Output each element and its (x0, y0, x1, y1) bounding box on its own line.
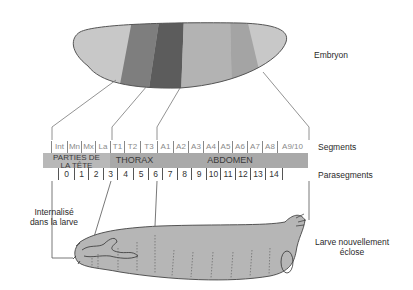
parasegment-cell: 8 (177, 168, 191, 180)
segment-cell: A8 (262, 141, 277, 153)
abdomen-label: ABDOMEN (200, 157, 260, 165)
internalized-line2: dans la larve (24, 217, 84, 227)
parasegment-cell: 1 (74, 168, 88, 180)
segment-cell: A4 (203, 141, 218, 153)
segment-cell: A6 (232, 141, 247, 153)
internalized-line1: Internalisé (24, 207, 84, 217)
segment-cell: A7 (247, 141, 262, 153)
embryo (60, 15, 300, 95)
parasegment-cell: 0 (58, 168, 74, 180)
larva-line1: Larve nouvellement (302, 237, 402, 247)
head-region-label: PARTIES DE LA TÊTE (43, 154, 110, 169)
parasegment-cell: 13 (250, 168, 265, 180)
parasegment-cell: 11 (220, 168, 235, 180)
segment-cell: A9/10 (277, 141, 307, 153)
parasegments-label: Parasegments (318, 170, 373, 180)
parasegment-cell: 9 (191, 168, 206, 180)
parasegment-cell: 3 (103, 168, 117, 180)
segment-cell: A5 (218, 141, 232, 153)
segment-cell: Int (51, 141, 67, 153)
segment-cell: A1 (157, 141, 173, 153)
segment-cell: La (95, 141, 110, 153)
larva (73, 214, 306, 280)
segment-cell: Mn (67, 141, 81, 153)
parasegment-cell: 10 (206, 168, 220, 180)
segment-cell: T3 (140, 141, 157, 153)
parasegment-cell: 6 (148, 168, 162, 180)
larva-line2: éclose (302, 247, 402, 257)
embryo-label: Embryon (314, 50, 348, 60)
parasegment-cell: 7 (162, 168, 177, 180)
segment-cell: T2 (124, 141, 140, 153)
segment-cell: T1 (110, 141, 124, 153)
parasegment-cell: 14 (265, 168, 283, 180)
internalized-label: Internalisé dans la larve (24, 207, 84, 227)
parasegment-cell: 12 (235, 168, 250, 180)
thorax-label: THORAX (112, 157, 157, 165)
segment-cell: A3 (188, 141, 203, 153)
parasegment-cell: 4 (117, 168, 133, 180)
segment-cell: Mx (81, 141, 95, 153)
parasegment-cell: 5 (133, 168, 148, 180)
parasegment-cell: 2 (88, 168, 103, 180)
larva-label: Larve nouvellement éclose (302, 237, 402, 257)
segment-cell: A2 (173, 141, 188, 153)
segments-label: Segments (318, 142, 356, 152)
